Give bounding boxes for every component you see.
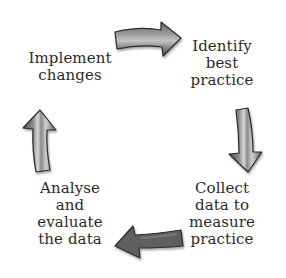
step-implement-label: Implement changes — [20, 50, 120, 84]
step-collect-label: Collect data to measure practice — [172, 180, 272, 248]
step-analyse-label: Analyse and evaluate the data — [20, 180, 120, 248]
arrow-up-icon — [20, 106, 60, 178]
cycle-diagram: Implement changes Identify best practice… — [0, 0, 286, 278]
arrow-down-icon — [226, 106, 266, 178]
step-identify-label: Identify best practice — [172, 38, 272, 89]
